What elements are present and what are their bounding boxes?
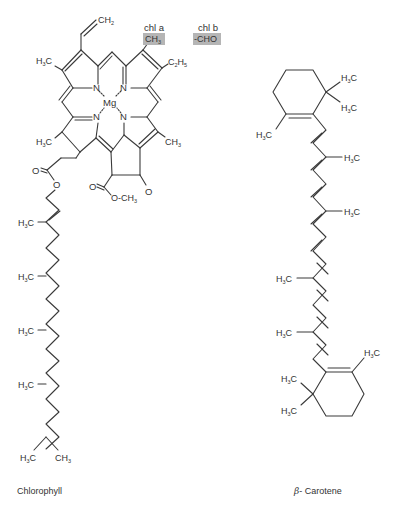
methoxy-label: O-CH3 [111,193,137,204]
top-ring-gem-methyl-2: H3C [341,103,358,114]
magnesium-atom: Mg [103,97,116,108]
variant-legend: chl a CH3 chl b -CHO [143,22,221,45]
chemical-structures-figure: CH2 H3C C2H5 [0,0,397,510]
pyrrole-ring-a: H3C [36,50,98,88]
propionate-chain: O O [32,152,80,190]
ester-oxygen: O [53,179,60,190]
phytol-methyl-4: H3C [18,380,35,391]
pyrrole-ring-d: H3C [36,117,98,152]
ester-carbonyl-oxygen: O [89,181,96,192]
bottom-cyclohexene-ring: H3C H3C H3C [281,348,381,417]
chlorophyll-caption: Chlorophyll [17,486,62,496]
pyrrole-ring-b: C2H5 [123,43,187,88]
ring-a-methyl-label: H3C [36,56,53,67]
chain-methyl-3: H3C [276,274,293,285]
nitrogen-atom-3: N [93,111,100,122]
polyene-chain: H3C H3C H3C H3C [276,114,361,372]
top-ring-methyl: H3C [256,130,273,141]
chain-methyl-1: H3C [344,153,361,164]
chlorophyll-structure: CH2 H3C C2H5 [17,15,221,496]
ketone-oxygen: O [145,186,152,197]
phytol-methyl-2: H3C [18,272,35,283]
bottom-ring-gem-methyl-1: H3C [281,374,298,385]
chain-methyl-4: H3C [276,328,293,339]
ring-b-ethyl-label: C2H5 [168,57,187,68]
phytol-methyl-1: H3C [18,218,35,229]
bottom-ring-methyl: H3C [364,348,381,359]
top-ring-gem-methyl-1: H3C [341,73,358,84]
beta-carotene-caption: β- Carotene [293,486,342,496]
chl-b-header: chl b [198,22,218,33]
chl-b-substituent: -CHO [194,34,217,44]
phytol-methyl-3: H3C [18,326,35,337]
phytol-terminal-methyl-2: CH3 [55,453,71,464]
pyrrole-ring-c: CH3 [124,117,181,148]
propionate-carbonyl-oxygen: O [32,165,39,176]
phytol-chain: H3C H3C H3C H3C H3C CH3 [18,190,71,464]
top-cyclohexene-ring: H3C H3C H3C [256,70,358,141]
ring-d-methyl-label: H3C [36,137,53,148]
carbomethoxy-group: O O-CH3 [89,175,137,204]
vinyl-ch2-label: CH2 [98,15,114,26]
ring-c-methyl-label: CH3 [165,137,181,148]
phytol-terminal-methyl-1: H3C [20,453,37,464]
beta-carotene-structure: H3C H3C H3C H3C H3C H3C H3C [256,70,381,496]
chain-methyl-2: H3C [344,207,361,218]
vinyl-group: CH2 [81,15,114,50]
chl-a-header: chl a [144,22,165,33]
bottom-ring-gem-methyl-2: H3C [281,406,298,417]
